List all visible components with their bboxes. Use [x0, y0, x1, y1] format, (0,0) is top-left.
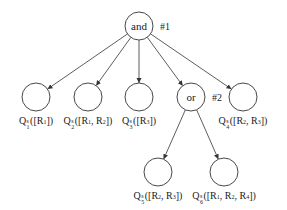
and-node-label: and [131, 20, 147, 32]
leaf-label-q1: Qs1([R1]) [19, 115, 53, 131]
leaf-node-q3 [125, 83, 153, 111]
leaf-label-q4: Qs4([R2, R3]) [219, 115, 268, 131]
or-node-tag: #2 [212, 92, 222, 103]
leaf-node-q6 [210, 158, 238, 186]
edge-root-q2 [96, 37, 131, 85]
tree-canvas: and#1or#2 [0, 0, 287, 210]
leaf-label-q2: Qs2([R1, R2]) [64, 115, 113, 131]
leaf-node-q4 [229, 83, 257, 111]
edge-root-q4 [151, 34, 232, 89]
nodes: and#1or#2 [22, 12, 257, 186]
leaf-node-q2 [74, 83, 102, 111]
edge-root-or [147, 37, 182, 85]
or-node-label: or [186, 91, 196, 103]
edge-root-q1 [48, 34, 128, 89]
leaf-node-q5 [144, 158, 172, 186]
edge-or-q6 [197, 110, 219, 159]
leaf-label-q3: Qs3([R3]) [122, 115, 156, 131]
leaf-node-q1 [22, 83, 50, 111]
leaf-label-q5: Qs5([R2, R3]) [134, 190, 183, 206]
and-node-tag: #1 [160, 21, 170, 32]
edge-or-q5 [164, 110, 186, 159]
leaf-label-q6: Qs6([R1, R2, R4]) [192, 190, 256, 206]
